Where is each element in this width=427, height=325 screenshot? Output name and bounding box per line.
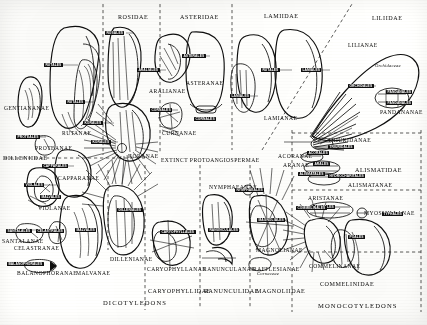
superorder-label-magnolianae: MAGNOLIANAE xyxy=(256,248,303,254)
order-chip-nymphaeales: NYMPHAEALES xyxy=(235,188,264,192)
class-label-ranunculidae: RANUNCULIDAE xyxy=(204,288,259,294)
family-label-cornaceae: Cornaceae xyxy=(257,272,279,277)
superorder-label-koranae: KORANAE xyxy=(128,154,159,160)
order-chip-pandanales-1: PANDANALES xyxy=(386,90,412,94)
order-chip-lamiales-2: LAMIALES xyxy=(230,94,250,98)
superorder-label-pandananae: PANDANANAE xyxy=(380,110,423,116)
order-chip-commelinales: COMMELINALES xyxy=(296,206,327,210)
order-chip-alismatales: ALISMATALES xyxy=(298,172,325,176)
koranae-ray-bundle xyxy=(84,104,158,186)
superorder-label-aristanae: ARISTANAE xyxy=(308,196,343,202)
order-chip-celastrales: CELASTRALES xyxy=(36,229,64,233)
superorder-label-balanophoranae: BALANOPHORANAE xyxy=(17,271,77,277)
order-chip-lamiales-1: LAMIALES xyxy=(301,68,321,72)
class-label-commelinidae: COMMELINIDAE xyxy=(320,281,374,287)
class-label-dilleniidae: DILLENIIDAE xyxy=(3,155,48,161)
superorder-label-aralianae: ARALIANAE xyxy=(149,89,186,95)
class-label-liliidae: LILIIDAE xyxy=(372,15,402,21)
superorder-label-triuridanae: TRIURIDANAE xyxy=(328,138,371,144)
class-label-rosidae: ROSIDAE xyxy=(118,14,148,20)
order-chip-dilleniales: DILLENIALES xyxy=(117,208,143,212)
superorder-label-proteanae: PROTEANAE xyxy=(35,146,72,152)
order-chip-capparales: CAPPARALES xyxy=(42,164,68,168)
order-chip-violales: VIOLALES xyxy=(24,183,44,187)
superorder-label-violanae: VIOLANAE xyxy=(38,206,71,212)
order-chip-magnoliales: MAGNOLIALES xyxy=(257,218,285,222)
superorder-label-capparanae: CAPPARANAE xyxy=(58,176,99,182)
superorder-label-protoangiospermae: EXTINCT PROTOANGIOSPERMAE xyxy=(161,158,260,164)
superorder-label-commelinanae: COMMELINANAE xyxy=(309,264,360,270)
order-chip-triuridales: TRIURIDALES xyxy=(328,145,354,149)
class-label-lamiidae: LAMIIDAE xyxy=(264,13,299,19)
order-chip-caryophyllales: CARYOPHYLLALES xyxy=(160,230,196,234)
division-label-dicotyledons: DICOTYLEDONS xyxy=(103,300,167,307)
floral-diagram-commelinanae-main xyxy=(305,219,341,264)
order-chip-araliales: ARALIALES xyxy=(137,68,160,72)
class-label-alismatidae: ALISMATIDAE xyxy=(355,167,402,173)
class-label-asteridae: ASTERIDAE xyxy=(180,14,219,20)
order-chip-hydrocharitales: HYDROCHARITALES xyxy=(328,174,365,178)
order-chip-rutales-2: RUTALES xyxy=(66,100,85,104)
superorder-label-aranae: ARANAE xyxy=(283,163,309,169)
order-chip-proteales: PROTEALES xyxy=(16,135,40,139)
superorder-label-ranunculanae: RANUNCULANAE xyxy=(203,267,255,273)
order-chip-balanophorales: BALANOPHORALES xyxy=(7,262,44,266)
dillenianae-rays xyxy=(82,160,158,206)
superorder-label-santalanae: SANTALANAE xyxy=(2,239,44,245)
floral-diagram-gentiananae xyxy=(18,77,42,127)
superorder-label-lamianae: LAMIANAE xyxy=(264,116,297,122)
superorder-label-alismatanae: ALISMATANAE xyxy=(348,183,392,189)
superorder-label-rutanae: RUTANAE xyxy=(62,131,91,137)
floral-diagram-ranunculanae-lower xyxy=(202,247,236,264)
superorder-label-asteranae: ASTERANAE xyxy=(186,81,223,87)
class-label-magnoliidae: MAGNOLIIDAE xyxy=(256,288,305,294)
superorder-label-celastranae: CELASTRANAE xyxy=(14,246,59,252)
order-chip-pandanales-2: PANDANALES xyxy=(386,101,412,105)
superorder-label-curnanae: CURNANAE xyxy=(162,131,197,137)
order-chip-orchidales: ORCHIDALES xyxy=(348,84,374,88)
superorder-label-dillenianae: DILLENIANAE xyxy=(110,257,153,263)
order-chip-cornales-2: CORNALES xyxy=(194,117,216,121)
order-chip-cornales-1: CORNALES xyxy=(150,108,172,112)
floral-diagram-sheet: ROSIDAE ASTERIDAE LAMIIDAE LILIIDAE DILL… xyxy=(0,0,427,325)
floral-diagram-caryophyllanae xyxy=(150,220,194,268)
order-chip-rosales: ROSALES xyxy=(105,31,124,35)
order-chip-malvales-1: MALVALES xyxy=(40,195,61,199)
division-label-monocotyledons: MONOCOTYLEDONS xyxy=(318,303,398,310)
order-chip-rutales-3: RUTALES xyxy=(261,68,280,72)
floral-diagram-violanae xyxy=(27,168,59,208)
order-chip-poales: POALES xyxy=(348,235,365,239)
floral-diagram-asteranae xyxy=(186,32,224,113)
floral-diagram-nymphaeanae xyxy=(203,195,233,245)
superorder-label-gentiananae: GENTIANANAE xyxy=(4,106,49,112)
order-chip-typhales: TYPHALES xyxy=(382,212,403,216)
superorder-label-caryophyllanae: CARYOPHYLLANAE xyxy=(147,267,206,273)
order-chip-asterales: ASTERALES xyxy=(182,54,206,58)
floral-diagram-capparanae xyxy=(55,150,91,197)
order-chip-korales-1: KORALES xyxy=(83,121,103,125)
floral-diagram-lamianae-left xyxy=(237,35,276,112)
order-chip-ranunculales: RANUNCULALES xyxy=(208,228,239,232)
order-chip-acorales: ACORALES xyxy=(307,151,329,155)
order-chip-korales-2: KORALES xyxy=(91,140,111,144)
family-label-orchidaceae: Orchidaceae xyxy=(375,64,401,69)
order-chip-santalales: SANTALALES xyxy=(6,229,32,233)
order-chip-malvales-2: MALVALES xyxy=(75,228,96,232)
floral-diagram-rutanae-right xyxy=(231,64,255,113)
class-label-caryophyllidae: CARYOPHYLLIDAE xyxy=(148,288,211,294)
superorder-label-malvanae: MALVANAE xyxy=(76,271,110,277)
superorder-label-lilianae: LILIANAE xyxy=(348,43,378,49)
order-chip-arales: ARALES xyxy=(313,162,330,166)
order-chip-rutales-1: RUTALES xyxy=(44,63,63,67)
floral-diagram-lamianae-right xyxy=(275,30,322,119)
